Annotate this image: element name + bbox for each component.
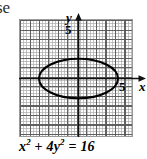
x-axis-tick-label-5: 5 (119, 79, 126, 95)
y-axis-tick-label-5: 5 (65, 22, 72, 38)
equation-caption: x2 + 4y2 = 16 (19, 139, 95, 155)
equation-plus-operator: + (31, 139, 47, 154)
equation-right-hand-side: 16 (80, 139, 94, 154)
x-axis-label: x (139, 79, 146, 95)
equation-equals-operator: = (65, 139, 81, 154)
plot-grid-area (19, 19, 133, 137)
equation-term2-coefficient: 4 (46, 139, 53, 154)
ellipse-graph-figure: se y x 5 5 x2 + 4y2 = 16 (0, 0, 147, 159)
cut-off-text-fragment: se (0, 0, 10, 17)
